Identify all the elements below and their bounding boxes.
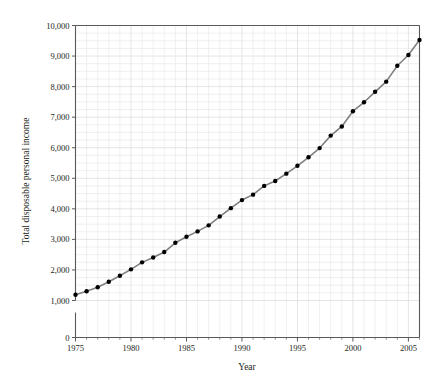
- x-tick-label: 2000: [344, 343, 361, 353]
- x-tick-label: 1990: [233, 343, 250, 353]
- y-tick-label: 0: [65, 333, 69, 343]
- y-tick-label: 3,000: [50, 234, 69, 244]
- data-point: [340, 124, 344, 128]
- x-tick-label: 2005: [400, 343, 417, 353]
- data-point: [162, 250, 166, 254]
- y-tick-label: 1,000: [50, 296, 69, 306]
- data-point: [129, 267, 133, 271]
- data-point: [262, 184, 266, 188]
- data-point: [218, 214, 222, 218]
- chart-figure: 01,0002,0003,0004,0005,0006,0007,0008,00…: [0, 0, 439, 387]
- data-point: [384, 79, 388, 83]
- data-point: [273, 179, 277, 183]
- x-tick-label: 1975: [67, 343, 84, 353]
- data-point: [151, 255, 155, 259]
- x-tick-label: 1995: [289, 343, 306, 353]
- data-point: [184, 235, 188, 239]
- data-point: [417, 38, 421, 42]
- data-point: [107, 280, 111, 284]
- data-point: [206, 223, 210, 227]
- y-axis-title: Total disposable personal income: [21, 118, 31, 245]
- data-point: [95, 285, 99, 289]
- data-point: [329, 133, 333, 137]
- data-point: [195, 229, 199, 233]
- data-point: [362, 100, 366, 104]
- y-tick-label: 7,000: [50, 112, 69, 122]
- data-point: [118, 274, 122, 278]
- data-point: [240, 198, 244, 202]
- data-point: [395, 64, 399, 68]
- x-tick-label: 1980: [122, 343, 139, 353]
- line-chart: 01,0002,0003,0004,0005,0006,0007,0008,00…: [0, 0, 439, 387]
- data-point: [73, 293, 77, 297]
- y-tick-label: 5,000: [50, 173, 69, 183]
- y-tick-label: 10,000: [46, 21, 69, 31]
- data-point: [295, 164, 299, 168]
- y-tick-label: 2,000: [50, 265, 69, 275]
- data-point: [406, 53, 410, 57]
- data-point: [251, 192, 255, 196]
- y-tick-label: 4,000: [50, 204, 69, 214]
- data-point: [351, 109, 355, 113]
- data-point: [284, 171, 288, 175]
- data-point: [373, 90, 377, 94]
- data-point: [140, 260, 144, 264]
- data-point: [306, 155, 310, 159]
- y-tick-label: 9,000: [50, 51, 69, 61]
- y-tick-label: 6,000: [50, 143, 69, 153]
- data-point: [317, 146, 321, 150]
- data-point: [229, 206, 233, 210]
- x-axis-title: Year: [238, 362, 256, 372]
- data-point: [84, 289, 88, 293]
- y-tick-label: 8,000: [50, 82, 69, 92]
- x-tick-label: 1985: [178, 343, 195, 353]
- data-point: [173, 241, 177, 245]
